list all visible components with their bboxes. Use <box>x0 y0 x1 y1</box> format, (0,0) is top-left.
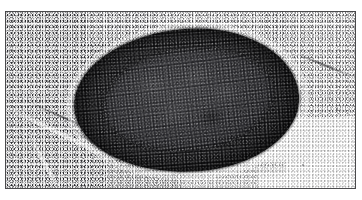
speck-right-margin <box>336 108 338 110</box>
speck-lower-right <box>302 164 304 166</box>
figure-root: Lymph node surrounded by adipose tissue <box>0 0 362 200</box>
micrograph-image <box>6 12 355 188</box>
plate-frame <box>5 11 356 189</box>
